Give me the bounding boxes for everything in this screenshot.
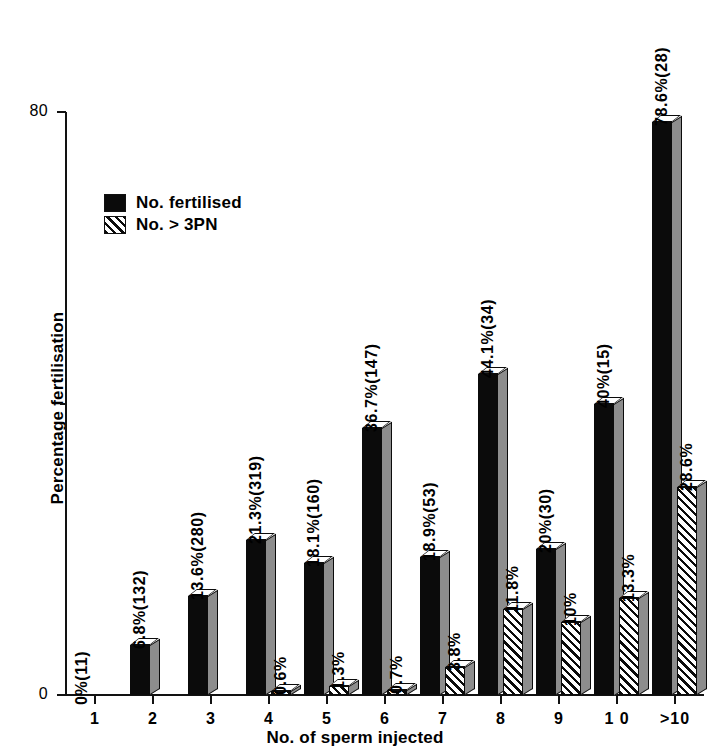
bar-label: 6.8%(132) xyxy=(131,570,149,649)
bar-side xyxy=(150,639,160,695)
legend-label-fertilised: No. fertilised xyxy=(136,193,242,213)
bar-3pn-8 xyxy=(503,609,523,695)
legend-swatch-hatch-icon xyxy=(104,216,126,234)
x-tick-label: 2 xyxy=(123,710,183,728)
x-tick xyxy=(94,696,96,704)
bar-face xyxy=(362,428,382,695)
bar-label: 0.6% xyxy=(272,656,290,695)
bar-fertilised-8 xyxy=(478,374,498,695)
bar-face xyxy=(246,540,266,695)
bar-label: 1.3% xyxy=(330,651,348,690)
bar-label: 36.7%(147) xyxy=(363,343,381,432)
bar-label: 0.7% xyxy=(388,655,406,694)
bar-fertilised-10 xyxy=(652,122,672,695)
y-tick-label: 80 xyxy=(14,102,48,120)
x-tick-label: 9 xyxy=(529,710,589,728)
x-tick xyxy=(674,696,676,704)
x-tick-label: 1 xyxy=(65,710,125,728)
bar-label: 20%(30) xyxy=(537,489,555,554)
x-tick xyxy=(268,696,270,704)
bar-face xyxy=(652,122,672,695)
bar-label: 28.6% xyxy=(678,442,696,490)
bar-face xyxy=(130,645,150,695)
y-tick-label: 0 xyxy=(14,685,48,703)
bar-label: 44.1%(34) xyxy=(479,298,497,377)
legend-label-3pn: No. > 3PN xyxy=(136,215,218,235)
x-tick-label: 1 0 xyxy=(587,710,647,728)
bar-label: 11.8% xyxy=(504,566,522,613)
bar-face xyxy=(677,487,697,695)
x-tick xyxy=(152,696,154,704)
bar-3pn-10 xyxy=(677,487,697,695)
x-tick xyxy=(442,696,444,704)
y-tick xyxy=(60,403,66,405)
x-tick xyxy=(616,696,618,704)
bar-fertilised-10 xyxy=(594,404,614,696)
bar-face xyxy=(536,549,556,695)
legend-item-3pn: No. > 3PN xyxy=(104,214,242,236)
bar-fertilised-6 xyxy=(362,428,382,695)
x-tick xyxy=(326,696,328,704)
bar-side xyxy=(581,616,591,695)
bar-label: 10% xyxy=(562,592,580,626)
bar-label: 18.9%(53) xyxy=(421,482,439,561)
x-tick xyxy=(500,696,502,704)
y-tick xyxy=(57,111,66,113)
x-tick xyxy=(558,696,560,704)
bar-face xyxy=(445,667,465,695)
bar-face xyxy=(304,563,324,695)
bar-label: 21.3%(319) xyxy=(247,455,265,544)
bar-fertilised-4 xyxy=(246,540,266,695)
bar-side xyxy=(639,592,649,695)
x-tick-label: 5 xyxy=(297,710,357,728)
bar-fertilised-3 xyxy=(188,596,208,695)
bar-label: 3.8% xyxy=(446,632,464,671)
bar-label: 13.3% xyxy=(620,554,638,602)
bar-fertilised-9 xyxy=(536,549,556,695)
bar-face xyxy=(420,557,440,695)
x-tick-label: 8 xyxy=(471,710,531,728)
x-tick-label: >10 xyxy=(645,710,705,728)
bar-label: 13.6%(280) xyxy=(189,511,207,600)
x-tick-label: 4 xyxy=(239,710,299,728)
bar-3pn-9 xyxy=(561,622,581,695)
x-tick-label: 3 xyxy=(181,710,241,728)
bar-label: 0%(11) xyxy=(73,651,91,705)
bar-face xyxy=(478,374,498,695)
legend: No. fertilised No. > 3PN xyxy=(104,192,242,236)
x-tick xyxy=(384,696,386,704)
x-tick-label: 6 xyxy=(355,710,415,728)
bar-side xyxy=(465,661,475,695)
bar-face xyxy=(561,622,581,695)
bar-face xyxy=(594,404,614,696)
bar-3pn-7 xyxy=(445,667,465,695)
bar-label: 18.1%(160) xyxy=(305,478,323,567)
bar-label: 40%(15) xyxy=(595,343,613,408)
y-tick xyxy=(57,694,66,696)
bar-face xyxy=(188,596,208,695)
bar-side xyxy=(382,421,392,695)
x-tick xyxy=(210,696,212,704)
bar-fertilised-5 xyxy=(304,563,324,695)
bar-side xyxy=(208,590,218,695)
legend-item-fertilised: No. fertilised xyxy=(104,192,242,214)
x-tick-label: 7 xyxy=(413,710,473,728)
bar-side xyxy=(697,480,707,695)
bar-face xyxy=(619,598,639,695)
bar-face xyxy=(503,609,523,695)
bar-fertilised-2 xyxy=(130,645,150,695)
bar-side xyxy=(523,603,533,695)
bar-label: 78.6%(28) xyxy=(653,47,671,126)
bar-3pn-10 xyxy=(619,598,639,695)
x-axis-label: No. of sperm injected xyxy=(0,728,710,748)
legend-swatch-solid-icon xyxy=(104,194,126,212)
bar-chart: Percentage fertilisation No. of sperm in… xyxy=(0,0,710,756)
bar-fertilised-7 xyxy=(420,557,440,695)
